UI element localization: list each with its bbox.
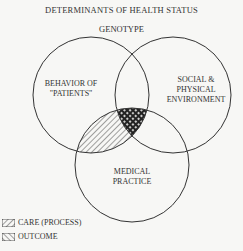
medical-label-line1: MEDICAL: [97, 167, 167, 177]
legend-care-label: CARE (PROCESS): [18, 218, 81, 227]
environment-label-line2: PHYSICAL: [158, 85, 234, 95]
environment-label: SOCIAL & PHYSICAL ENVIRONMENT: [158, 75, 234, 105]
environment-label-line3: ENVIRONMENT: [158, 95, 234, 105]
legend-outcome: OUTCOME: [2, 232, 58, 241]
medical-practice-label: MEDICAL PRACTICE: [97, 167, 167, 187]
legend-care: CARE (PROCESS): [2, 218, 81, 227]
medical-label-line2: PRACTICE: [97, 177, 167, 187]
back-hatch-swatch-icon: [2, 219, 15, 227]
forward-hatch-swatch-icon: [2, 233, 15, 241]
environment-label-line1: SOCIAL &: [158, 75, 234, 85]
behavior-label: BEHAVIOR OF "PATIENTS": [36, 79, 106, 99]
behavior-label-line1: BEHAVIOR OF: [36, 79, 106, 89]
legend-outcome-label: OUTCOME: [18, 232, 58, 241]
venn-diagram: [0, 0, 243, 251]
behavior-label-line2: "PATIENTS": [36, 89, 106, 99]
